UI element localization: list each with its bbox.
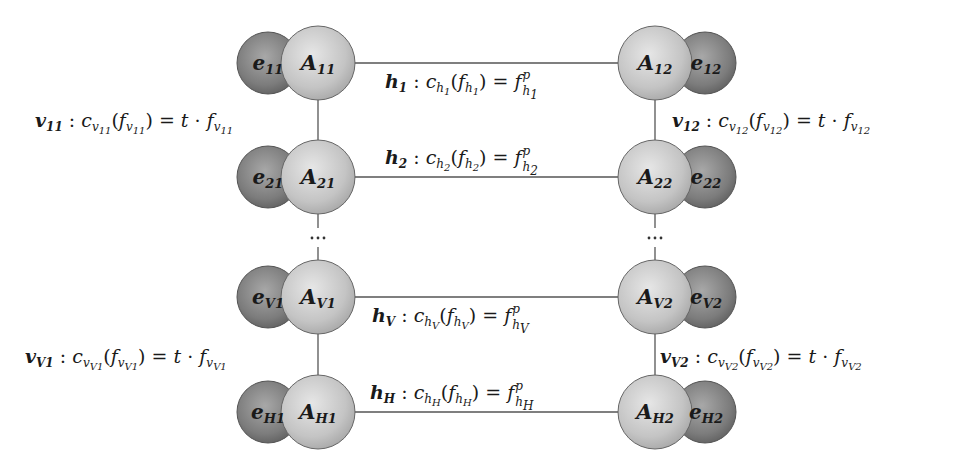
node-pair-11: e11 A11	[237, 26, 355, 100]
node-pair-V1: eV1 AV1	[237, 260, 355, 334]
label-vV1: vV1 : cvV1(fvV1) = t · fvV1	[25, 345, 227, 378]
label-hV: hV : chV(fhV) = fphV	[372, 304, 533, 337]
label-vV2: vV2 : cvV2(fvV2) = t · fvV2	[660, 345, 862, 378]
node-pair-V2: AV2 eV2	[618, 260, 736, 334]
node-pair-H1: eH1 AH1	[237, 375, 355, 449]
label-v12: v12 : cv12(fv12) = t · fv12	[672, 109, 870, 142]
label-hH: hH : chH(fhH) = fphH	[370, 381, 536, 414]
ellipsis-right	[648, 237, 663, 240]
label-v11: v11 : cv11(fv11) = t · fv11	[35, 109, 233, 142]
node-pair-12: A12 e12	[618, 26, 736, 100]
node-pair-H2: AH2 eH2	[618, 375, 736, 449]
node-pair-22: A22 e22	[618, 140, 736, 214]
node-pair-21: e21 A21	[237, 140, 355, 214]
ellipsis-left	[311, 237, 326, 240]
horizontal-edges	[318, 63, 655, 412]
label-h1: h1 : ch1(fh1) = fph1	[385, 70, 544, 103]
vertical-edges	[318, 63, 655, 412]
label-h2: h2 : ch2(fh2) = fph2	[385, 146, 544, 179]
